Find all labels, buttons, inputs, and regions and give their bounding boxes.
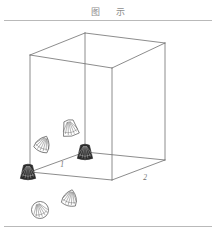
edge-label-2: 2	[143, 173, 147, 182]
box-edge-bottom-right-front	[112, 160, 165, 180]
box-edge-top-left-back	[30, 33, 85, 55]
footer-divider	[4, 226, 212, 227]
box-edge-top-front-left	[30, 55, 112, 68]
shell-5	[61, 188, 79, 208]
shell-2	[33, 133, 53, 154]
box-edge-top-right-front	[112, 43, 165, 68]
figure-title-bar: 图 示	[0, 0, 216, 22]
box-diagram: 12	[0, 20, 216, 226]
shell-1	[60, 118, 79, 138]
wireframe-box	[30, 33, 165, 180]
edge-label-1: 1	[60, 160, 64, 169]
figure-canvas: 12	[0, 20, 216, 226]
box-edge-bottom-left-back	[30, 152, 85, 172]
shell-3	[77, 144, 92, 160]
figure-page: 图 示 12	[0, 0, 216, 233]
box-edge-top-back-right	[85, 33, 165, 43]
shell-6	[29, 199, 51, 221]
box-edge-bottom-back-right	[85, 152, 165, 160]
page-title: 图 示	[84, 5, 133, 18]
box-edge-bottom-front-left	[30, 172, 112, 180]
shell-4	[20, 164, 35, 180]
